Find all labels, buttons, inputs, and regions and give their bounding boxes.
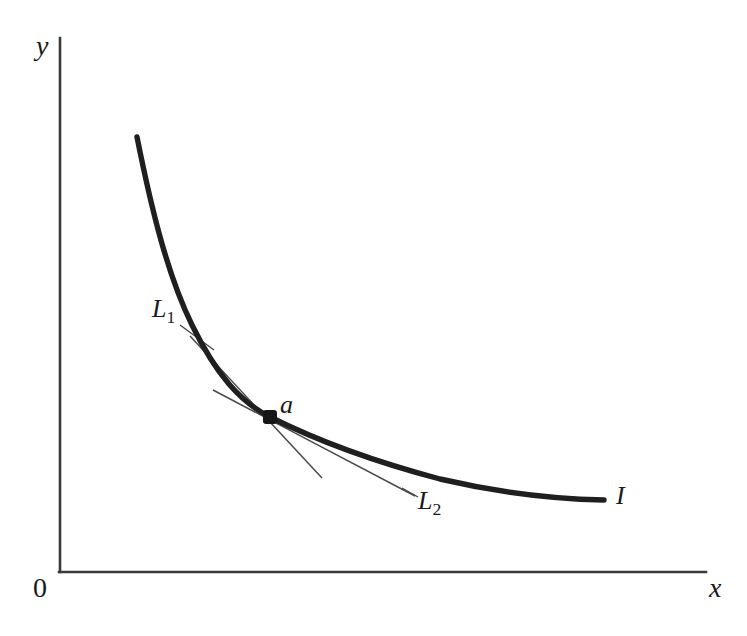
tangent-label-l2-subscript: 2 xyxy=(432,499,441,519)
point-a-dot xyxy=(263,410,277,424)
tangent-label-l1-base: L xyxy=(152,294,166,323)
indifference-curve-path xyxy=(137,137,604,500)
tangent-label-l1-subscript: 1 xyxy=(166,307,175,327)
tangent-label-l2-base: L xyxy=(418,486,432,515)
curve-label-i: I xyxy=(616,483,625,509)
leader-line-l2 xyxy=(402,488,418,497)
tangent-lines-group xyxy=(180,325,418,497)
tangent-label-l2: L2 xyxy=(418,488,441,519)
tangent-label-l1: L1 xyxy=(152,296,175,327)
indifference-curve-svg xyxy=(0,0,747,636)
y-axis-label: y xyxy=(36,32,48,60)
point-a-label: a xyxy=(280,392,293,418)
x-axis-label: x xyxy=(709,574,721,602)
indifference-curve-group xyxy=(137,137,604,500)
figure-canvas: y x 0 a I L1 L2 xyxy=(0,0,747,636)
origin-label: 0 xyxy=(33,574,47,602)
point-a-marker-group xyxy=(263,410,277,424)
tangent-line-l2 xyxy=(213,390,415,496)
